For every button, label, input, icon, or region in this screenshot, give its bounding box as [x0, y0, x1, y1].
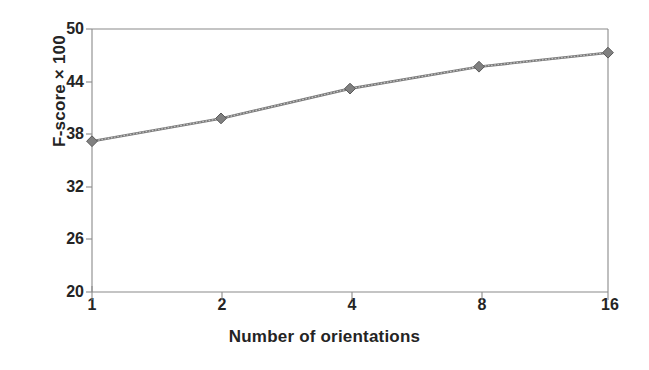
data-point-marker	[474, 61, 485, 72]
series-line	[92, 53, 608, 142]
data-series-f-score	[87, 47, 614, 146]
plot-area	[0, 0, 649, 370]
data-point-marker	[216, 113, 227, 124]
data-point-marker	[603, 47, 614, 58]
data-point-marker	[87, 136, 98, 147]
data-point-marker	[345, 83, 356, 94]
x-axis-ticks	[92, 286, 482, 300]
plot-frame	[92, 29, 608, 300]
y-axis-ticks	[86, 29, 92, 292]
chart-figure: F-score × 100 50 44 38 32 26 20 1 2 4 8 …	[0, 0, 649, 370]
series-markers	[87, 47, 614, 146]
